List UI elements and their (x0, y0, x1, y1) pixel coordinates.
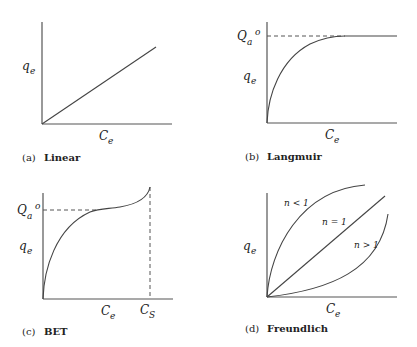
curve-n-less-1 (267, 185, 365, 297)
caption: Linear (44, 152, 81, 163)
panel-langmuir: Q a o q e C e (b) Langmuir (237, 22, 397, 162)
svg-text:a: a (27, 211, 32, 221)
svg-text:o: o (255, 27, 261, 37)
x-axis-label: C (325, 128, 334, 142)
caption: Freundlich (267, 323, 329, 334)
linear-curve (42, 47, 156, 124)
svg-text:a: a (247, 37, 252, 47)
svg-text:e: e (251, 246, 256, 256)
panel-freundlich: n < 1 n = 1 n > 1 q e C e (d) Freundlich (243, 185, 397, 334)
y-axis-label: q (22, 59, 30, 73)
plateau-label: Q (17, 203, 27, 217)
caption: Langmuir (267, 151, 322, 162)
caption-tag: (d) (245, 323, 259, 334)
svg-text:e: e (251, 76, 256, 86)
label-n-greater-1: n > 1 (354, 240, 379, 250)
svg-text:o: o (35, 201, 41, 211)
caption-tag: (c) (22, 326, 36, 337)
svg-text:S: S (149, 310, 155, 320)
svg-text:e: e (108, 136, 113, 146)
bet-curve (43, 187, 150, 299)
panel-linear: q e C e (a) Linear (22, 22, 172, 163)
saturation-label: C (140, 303, 149, 317)
x-axis-label: C (99, 129, 108, 143)
plateau-label: Q (237, 29, 247, 43)
y-axis-label: q (243, 69, 251, 83)
caption: BET (44, 326, 68, 337)
caption-tag: (a) (22, 152, 36, 163)
label-n-less-1: n < 1 (284, 198, 309, 208)
x-axis-label: C (326, 302, 335, 316)
y-axis-label: q (243, 239, 251, 253)
label-n-equal-1: n = 1 (322, 217, 347, 227)
y-axis-label: q (19, 239, 27, 253)
svg-text:e: e (334, 135, 339, 145)
langmuir-curve (267, 36, 397, 123)
svg-text:e: e (335, 309, 340, 319)
panel-bet: Q a o q e C e C S (c) BET (17, 187, 173, 337)
svg-text:e: e (110, 311, 115, 321)
x-axis-label: C (101, 304, 110, 318)
isotherm-figure: q e C e (a) Linear Q a o q e C e (b) Lan… (0, 0, 417, 347)
svg-text:e: e (27, 246, 32, 256)
svg-text:e: e (30, 66, 35, 76)
caption-tag: (b) (245, 151, 259, 162)
